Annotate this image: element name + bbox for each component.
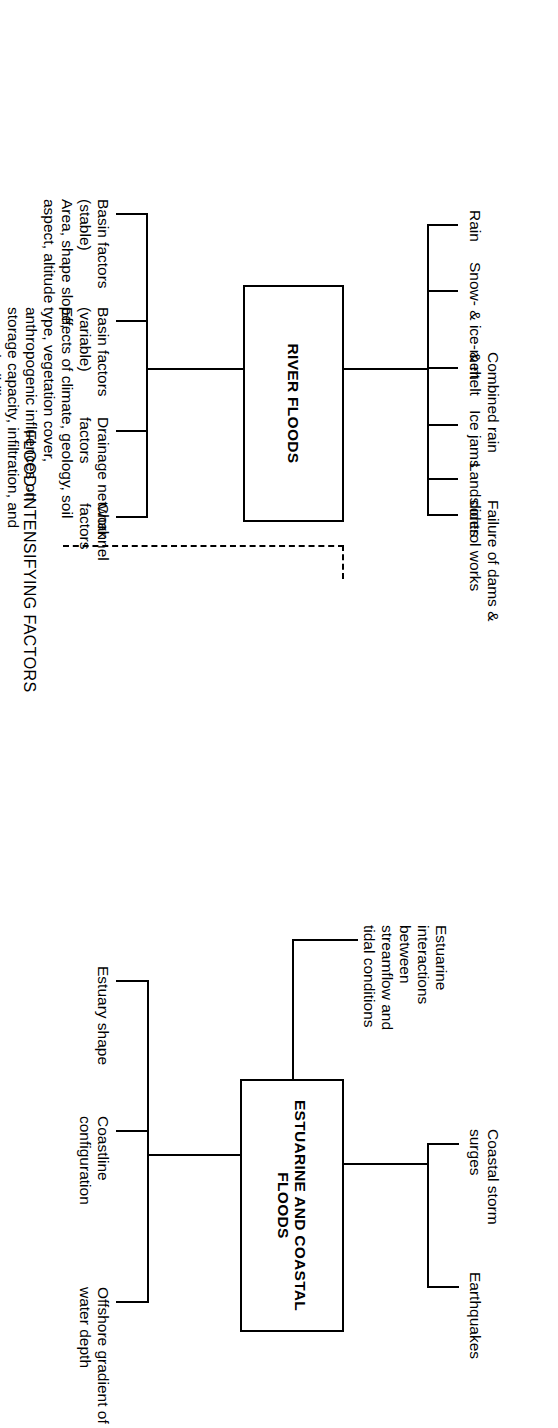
stub-cause-earthquakes — [427, 1286, 459, 1288]
label-factor-coastline-configuration: Coastline configuration — [76, 1116, 112, 1266]
stub-cause-failure-dams — [427, 514, 458, 516]
stub-factor-channel — [116, 516, 148, 518]
bracket-estuarine-factors-spine — [147, 980, 149, 1303]
stub-factor-offshore-gradient — [116, 1301, 149, 1303]
stub-cause-combined-rain-melt — [427, 367, 458, 369]
stub-cause-rain — [427, 224, 458, 226]
stub-factor-basin-variable — [116, 320, 148, 322]
stub-factor-basin-stable — [116, 213, 148, 215]
connector-river-factors-stem — [147, 368, 245, 370]
stub-factor-drainage-network — [116, 430, 148, 432]
stub-factor-estuary-shape — [116, 980, 149, 982]
label-cause-earthquakes: Earthquakes — [466, 1272, 484, 1402]
stub-cause-estuarine-interactions — [292, 939, 358, 941]
label-cause-failure-dams: Failure of dams & control works — [466, 500, 502, 660]
stub-cause-landslides — [427, 478, 458, 480]
bracket-river-factors-spine — [146, 213, 148, 516]
stub-cause-ice-jams — [427, 424, 458, 426]
connector-estuarine-causes-stem — [342, 1163, 429, 1165]
bracket-estuarine-causes-spine — [427, 1143, 429, 1288]
label-factor-estuary-shape: Estuary shape — [94, 966, 112, 1116]
node-river-floods: RIVER FLOODS — [243, 285, 344, 522]
node-estuarine-coastal-floods: ESTUARINE AND COASTAL FLOODS — [240, 1079, 344, 1332]
node-estuarine-coastal-floods-label: ESTUARINE AND COASTAL FLOODS — [275, 1081, 310, 1330]
dashed-link-horizontal — [342, 545, 344, 579]
label-cause-estuarine-interactions: Estuarine interactions between streamflo… — [360, 925, 450, 1115]
node-river-floods-label: RIVER FLOODS — [285, 344, 302, 464]
connector-estuarine-interactions — [292, 939, 294, 1081]
label-cause-coastal-storm-surges: Coastal storm surges — [466, 1129, 502, 1269]
label-factor-offshore-gradient: Offshore gradient of water depth — [76, 1287, 112, 1428]
connector-river-causes-stem — [342, 368, 428, 370]
bracket-river-causes-spine — [427, 224, 429, 514]
diagram-caption: FLOOD-INTENSIFYING FACTORS — [20, 430, 38, 693]
label-factor-channel: Channel factors — [76, 503, 112, 613]
connector-estuarine-factors-stem — [148, 1154, 242, 1156]
stub-cause-snow-ice-melt — [427, 290, 458, 292]
stub-factor-coastline-configuration — [116, 1130, 149, 1132]
stub-cause-coastal-storm-surges — [427, 1143, 459, 1145]
